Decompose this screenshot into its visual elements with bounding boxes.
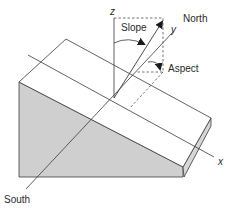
aspect-angle-arc [148, 62, 160, 69]
slope-aspect-diagram [0, 0, 236, 219]
south-label: South [4, 195, 30, 205]
z-axis-label: z [110, 7, 115, 17]
aspect-label: Aspect [168, 64, 199, 74]
slope-label: Slope [121, 23, 147, 33]
x-axis-label: x [218, 157, 223, 167]
slope-angle-arc [114, 40, 144, 44]
y-axis-label: y [171, 25, 176, 35]
north-label: North [183, 14, 207, 24]
